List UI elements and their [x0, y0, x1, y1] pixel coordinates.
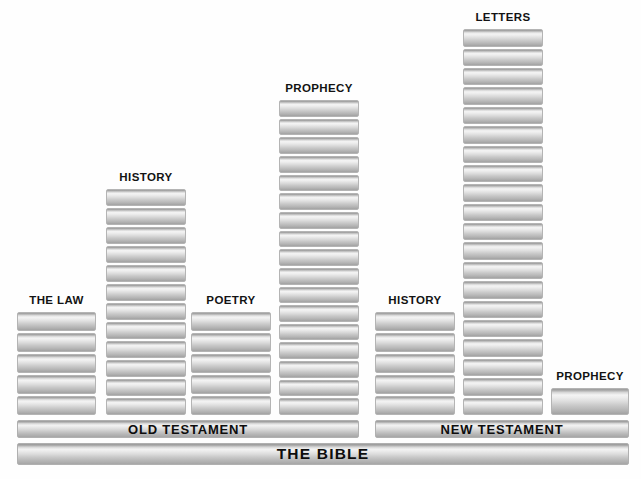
- book-block: [17, 333, 96, 352]
- book-block: [463, 359, 543, 376]
- summary-bar-label-new-testament: NEW TESTAMENT: [441, 422, 564, 437]
- book-block: [463, 262, 543, 279]
- book-block: [191, 396, 271, 415]
- book-block: [17, 354, 96, 373]
- book-block: [279, 361, 359, 378]
- book-block: [463, 223, 543, 240]
- book-block: [463, 378, 543, 395]
- column-label-ot-law: THE LAW: [17, 294, 96, 306]
- book-block: [106, 360, 186, 377]
- book-block: [375, 396, 455, 415]
- book-block: [375, 375, 455, 394]
- column-label-nt-letters: LETTERS: [463, 11, 543, 23]
- book-block: [106, 284, 186, 301]
- book-block: [279, 137, 359, 154]
- book-block: [551, 388, 629, 415]
- book-block: [106, 398, 186, 415]
- column-label-ot-poetry: POETRY: [191, 294, 271, 306]
- book-block: [106, 379, 186, 396]
- book-block: [463, 107, 543, 124]
- bible-structure-diagram: THE LAWHISTORYPOETRYPROPHECYHISTORYLETTE…: [0, 0, 641, 479]
- book-block: [279, 119, 359, 136]
- book-block: [191, 354, 271, 373]
- column-label-nt-history: HISTORY: [375, 294, 455, 306]
- book-block: [279, 231, 359, 248]
- book-block: [191, 375, 271, 394]
- column-label-ot-prophecy: PROPHECY: [279, 82, 359, 94]
- book-block: [463, 165, 543, 182]
- book-block: [463, 320, 543, 337]
- book-block: [106, 341, 186, 358]
- book-stack-ot-history: [106, 189, 186, 415]
- book-block: [463, 398, 543, 415]
- book-block: [463, 339, 543, 356]
- book-block: [463, 126, 543, 143]
- book-block: [375, 354, 455, 373]
- book-block: [463, 301, 543, 318]
- book-block: [106, 303, 186, 320]
- book-block: [463, 68, 543, 85]
- book-block: [463, 184, 543, 201]
- book-block: [106, 322, 186, 339]
- summary-bar-label-the-bible: THE BIBLE: [277, 445, 370, 463]
- book-block: [463, 242, 543, 259]
- book-block: [191, 333, 271, 352]
- book-block: [279, 193, 359, 210]
- book-block: [106, 208, 186, 225]
- book-block: [375, 333, 455, 352]
- book-stack-ot-prophecy: [279, 100, 359, 415]
- summary-bar-new-testament: NEW TESTAMENT: [375, 420, 629, 438]
- book-block: [463, 49, 543, 66]
- book-block: [375, 312, 455, 331]
- book-block: [463, 281, 543, 298]
- book-block: [463, 146, 543, 163]
- book-stack-ot-poetry: [191, 312, 271, 415]
- book-block: [17, 396, 96, 415]
- book-stack-ot-law: [17, 312, 96, 415]
- book-block: [279, 268, 359, 285]
- column-label-ot-history: HISTORY: [106, 171, 186, 183]
- book-block: [463, 87, 543, 104]
- summary-bar-label-old-testament: OLD TESTAMENT: [128, 422, 248, 437]
- book-block: [191, 312, 271, 331]
- book-block: [279, 249, 359, 266]
- book-block: [463, 204, 543, 221]
- book-block: [279, 324, 359, 341]
- summary-bar-the-bible: THE BIBLE: [17, 443, 629, 465]
- book-block: [279, 342, 359, 359]
- book-block: [279, 305, 359, 322]
- column-label-nt-prophecy: PROPHECY: [551, 370, 629, 382]
- book-block: [279, 380, 359, 397]
- book-stack-nt-prophecy: [551, 388, 629, 415]
- book-block: [106, 265, 186, 282]
- book-block: [106, 227, 186, 244]
- book-block: [463, 29, 543, 46]
- summary-bar-old-testament: OLD TESTAMENT: [17, 420, 359, 438]
- book-block: [279, 100, 359, 117]
- book-block: [17, 312, 96, 331]
- book-block: [279, 287, 359, 304]
- book-block: [279, 175, 359, 192]
- book-block: [279, 156, 359, 173]
- book-block: [17, 375, 96, 394]
- book-block: [106, 246, 186, 263]
- book-stack-nt-history: [375, 312, 455, 415]
- book-block: [106, 189, 186, 206]
- book-stack-nt-letters: [463, 29, 543, 415]
- book-block: [279, 398, 359, 415]
- book-block: [279, 212, 359, 229]
